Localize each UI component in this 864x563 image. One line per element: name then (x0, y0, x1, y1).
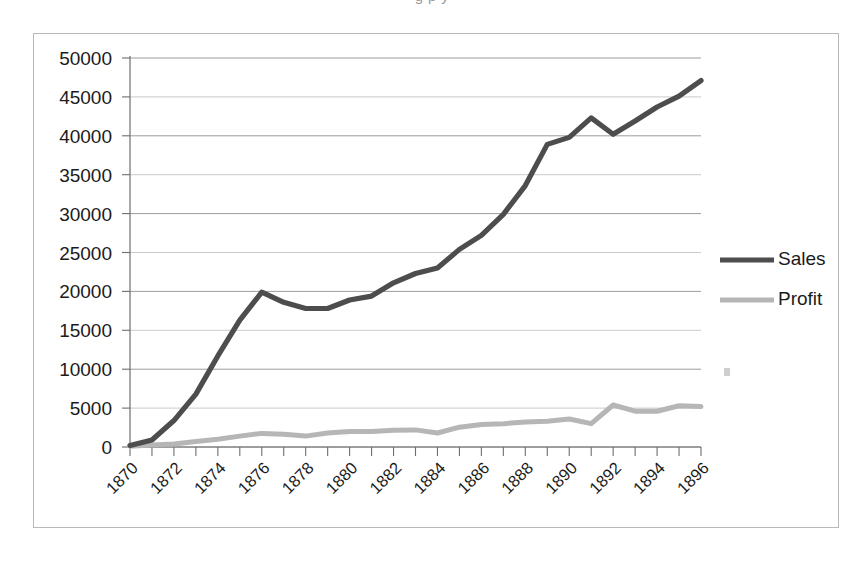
x-tick-label: 1888 (498, 458, 537, 497)
y-tick-label: 45000 (59, 87, 112, 108)
y-tick-label: 35000 (59, 165, 112, 186)
y-gridlines: 0500010000150002000025000300003500040000… (59, 48, 701, 458)
y-tick-label: 5000 (70, 398, 112, 419)
x-tick-label: 1870 (102, 458, 141, 497)
x-ticks: 1870187218741876187818801882188418861888… (102, 447, 712, 497)
x-tick-label: 1876 (234, 458, 273, 497)
x-tick-label: 1884 (410, 458, 449, 497)
scan-artifact-speck (724, 368, 730, 376)
line-chart: 0500010000150002000025000300003500040000… (34, 34, 838, 527)
y-tick-label: 50000 (59, 48, 112, 69)
legend-label-sales: Sales (778, 248, 826, 269)
series-line-sales (130, 81, 701, 446)
axes (130, 56, 701, 447)
x-tick-label: 1880 (322, 458, 361, 497)
y-tick-label: 25000 (59, 243, 112, 264)
y-tick-label: 15000 (59, 320, 112, 341)
y-tick-label: 20000 (59, 281, 112, 302)
chart-frame: 0500010000150002000025000300003500040000… (33, 33, 839, 528)
y-tick-label: 10000 (59, 359, 112, 380)
x-tick-label: 1892 (586, 458, 625, 497)
y-tick-label: 40000 (59, 126, 112, 147)
x-tick-label: 1872 (146, 458, 185, 497)
clipped-page-caption: g p y (0, 0, 864, 4)
x-tick-label: 1874 (190, 458, 229, 497)
x-tick-label: 1890 (542, 458, 581, 497)
x-tick-label: 1886 (454, 458, 493, 497)
y-tick-label: 30000 (59, 204, 112, 225)
legend-label-profit: Profit (778, 288, 823, 309)
page-canvas: g p y 0500010000150002000025000300003500… (0, 0, 864, 563)
y-tick-label: 0 (101, 437, 112, 458)
chart-legend: SalesProfit (720, 248, 826, 309)
series-line-profit (130, 405, 701, 446)
x-tick-label: 1882 (366, 458, 405, 497)
x-tick-label: 1896 (673, 458, 712, 497)
x-tick-label: 1878 (278, 458, 317, 497)
x-tick-label: 1894 (630, 458, 669, 497)
